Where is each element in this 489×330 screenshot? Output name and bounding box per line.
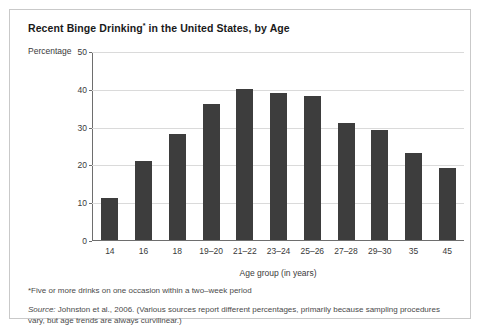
bar[interactable] — [236, 89, 253, 240]
y-tick-mark — [89, 165, 92, 166]
bar-group[interactable]: 19–20 — [194, 52, 228, 240]
source-note: Source: Johnston et al., 2006. (Various … — [28, 304, 454, 327]
footnote-text: *Five or more drinks on one occasion wit… — [28, 286, 454, 297]
bar-group[interactable]: 29–30 — [363, 52, 397, 240]
bar[interactable] — [135, 161, 152, 240]
figure-title-main: Recent Binge Drinking — [28, 22, 143, 34]
y-axis-title: Percentage — [28, 46, 71, 56]
bar[interactable] — [169, 134, 186, 240]
x-tick-label: 25–26 — [300, 246, 324, 256]
plot-area: 01020304050 14161819–2021–2223–2425–2627… — [92, 52, 464, 241]
figure-panel: Recent Binge Drinking* in the United Sta… — [9, 9, 471, 319]
x-tick-label: 16 — [139, 246, 148, 256]
y-tick-label: 40 — [78, 85, 87, 95]
bar-group[interactable]: 14 — [93, 52, 127, 240]
bar[interactable] — [203, 104, 220, 240]
bar[interactable] — [304, 96, 321, 240]
source-label: Source: — [28, 305, 56, 314]
source-body: Johnston et al., 2006. (Various sources … — [28, 305, 440, 326]
x-axis-line — [92, 240, 464, 241]
bar[interactable] — [270, 93, 287, 240]
y-tick-label: 50 — [78, 47, 87, 57]
x-tick-label: 27–28 — [334, 246, 358, 256]
bar-group[interactable]: 45 — [430, 52, 464, 240]
y-tick-label: 0 — [82, 236, 87, 246]
bar[interactable] — [439, 168, 456, 240]
y-tick-mark — [89, 52, 92, 53]
x-tick-label: 29–30 — [368, 246, 392, 256]
x-axis-title: Age group (in years) — [92, 268, 464, 278]
y-tick-mark — [89, 90, 92, 91]
bar-group[interactable]: 35 — [397, 52, 431, 240]
bar-group[interactable]: 23–24 — [262, 52, 296, 240]
figure-title: Recent Binge Drinking* in the United Sta… — [28, 22, 290, 34]
x-tick-label: 21–22 — [233, 246, 257, 256]
x-tick-label: 18 — [173, 246, 182, 256]
y-tick-mark — [89, 128, 92, 129]
x-tick-label: 35 — [409, 246, 418, 256]
x-tick-label: 19–20 — [199, 246, 223, 256]
bar[interactable] — [405, 153, 422, 240]
bar-group[interactable]: 27–28 — [329, 52, 363, 240]
x-tick-label: 23–24 — [267, 246, 291, 256]
bar[interactable] — [371, 130, 388, 240]
figure-title-rest: in the United States, by Age — [146, 22, 290, 34]
y-tick-label: 20 — [78, 160, 87, 170]
bar[interactable] — [101, 198, 118, 240]
bar-group[interactable]: 16 — [127, 52, 161, 240]
bar-series: 14161819–2021–2223–2425–2627–2829–303545 — [93, 52, 464, 240]
x-tick-label: 14 — [105, 246, 114, 256]
bar[interactable] — [338, 123, 355, 240]
bar-group[interactable]: 25–26 — [295, 52, 329, 240]
y-tick-mark — [89, 241, 92, 242]
y-tick-label: 30 — [78, 123, 87, 133]
y-tick-label: 10 — [78, 198, 87, 208]
bar-group[interactable]: 21–22 — [228, 52, 262, 240]
figure-notes: *Five or more drinks on one occasion wit… — [28, 286, 454, 327]
bar-group[interactable]: 18 — [160, 52, 194, 240]
x-tick-label: 45 — [442, 246, 451, 256]
y-tick-mark — [89, 203, 92, 204]
